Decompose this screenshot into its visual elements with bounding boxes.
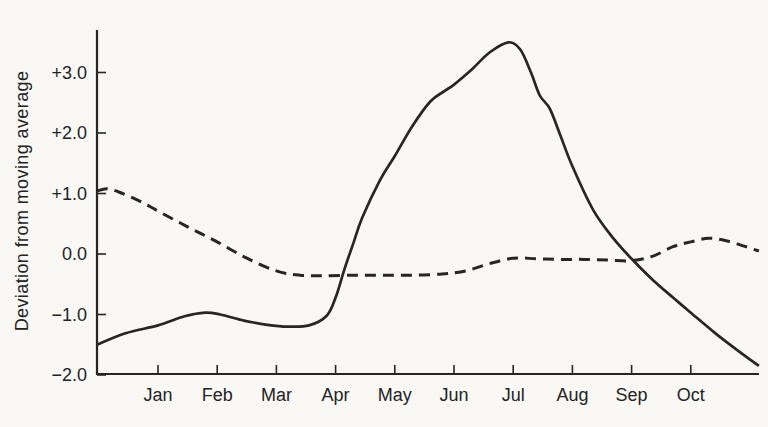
x-tick-label: Mar: [261, 385, 292, 405]
dashed-series-line: [97, 189, 759, 276]
chart-figure: Deviation from moving average +3.0+2.0+1…: [0, 0, 768, 427]
x-tick-label: Oct: [677, 385, 705, 405]
chart-canvas: +3.0+2.0+1.00.0−1.0−2.0JanFebMarAprMayJu…: [0, 0, 768, 427]
x-tick-label: Feb: [202, 385, 233, 405]
y-tick-label: 0.0: [62, 244, 87, 264]
x-tick-label: Aug: [556, 385, 588, 405]
x-tick-label: Sep: [616, 385, 648, 405]
x-tick-label: Jul: [502, 385, 525, 405]
x-tick-label: Jun: [439, 385, 468, 405]
x-tick-label: May: [378, 385, 412, 405]
y-tick-label: +3.0: [51, 63, 87, 83]
x-tick-label: Apr: [322, 385, 350, 405]
y-tick-label: −2.0: [51, 365, 87, 385]
y-tick-label: +2.0: [51, 123, 87, 143]
y-tick-label: −1.0: [51, 305, 87, 325]
x-tick-label: Jan: [143, 385, 172, 405]
y-tick-label: +1.0: [51, 184, 87, 204]
axes-line: [97, 30, 759, 374]
solid-series-line: [97, 42, 759, 366]
